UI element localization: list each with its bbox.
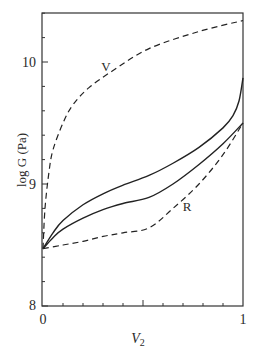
- x-axis-title: V2: [131, 331, 145, 348]
- y-axis-title: log G (Pa): [14, 133, 29, 187]
- curve-label-v: V: [101, 59, 111, 74]
- series-line-v: [43, 21, 243, 249]
- x-axis-title-sub: 2: [140, 337, 145, 348]
- y-tick-10: 10: [22, 55, 36, 70]
- series-line-r: [43, 123, 243, 249]
- series-group: [43, 21, 243, 249]
- y-tick-8: 8: [29, 298, 36, 313]
- plot-frame: [42, 13, 243, 306]
- y-tick-9: 9: [29, 177, 36, 192]
- curve-label-r: R: [183, 199, 192, 214]
- chart: 10 9 8 0 1 log G (Pa) V2 V R: [0, 0, 257, 354]
- x-tick-0: 0: [40, 312, 47, 327]
- x-tick-1: 1: [240, 312, 247, 327]
